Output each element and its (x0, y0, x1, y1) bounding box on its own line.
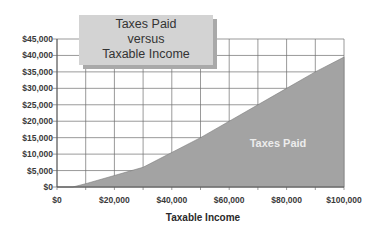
chart-title: Taxes Paid versus Taxable Income (79, 15, 213, 65)
y-tick-label: $10,000 (22, 149, 53, 159)
title-line-3: Taxable Income (79, 47, 213, 62)
y-tick-label: $5,000 (27, 166, 53, 176)
title-line-1: Taxes Paid (79, 17, 213, 32)
y-tick-label: $35,000 (22, 67, 53, 77)
series-label-taxes-paid: Taxes Paid (250, 137, 307, 149)
x-tick-label: $20,000 (99, 195, 130, 205)
x-tick-label: $0 (52, 195, 62, 205)
y-axis-tick-labels: $45,000$40,000$35,000$30,000$25,000$20,0… (22, 34, 53, 192)
x-tick-label: $80,000 (271, 195, 302, 205)
y-tick-label: $15,000 (22, 133, 53, 143)
y-tick-label: $40,000 (22, 50, 53, 60)
x-tick-label: $40,000 (156, 195, 187, 205)
x-tick-label: $100,000 (326, 195, 362, 205)
x-axis-title: Taxable Income (166, 212, 241, 223)
y-tick-label: $45,000 (22, 34, 53, 44)
y-tick-label: $0 (44, 182, 54, 192)
x-tick-label: $60,000 (214, 195, 245, 205)
chart-title-box: Taxes Paid versus Taxable Income (79, 15, 213, 65)
y-tick-label: $20,000 (22, 116, 53, 126)
title-line-2: versus (79, 32, 213, 47)
y-tick-label: $25,000 (22, 100, 53, 110)
y-tick-label: $30,000 (22, 83, 53, 93)
x-axis-tick-labels: $0$20,000$40,000$60,000$80,000$100,000 (52, 195, 362, 205)
